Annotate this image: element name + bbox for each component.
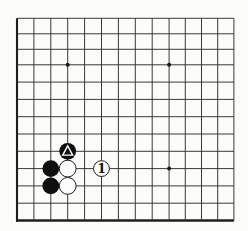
black-stone: [42, 160, 59, 177]
move-number-label: 1: [97, 161, 106, 176]
star-point: [167, 63, 171, 67]
board-background: [0, 0, 248, 231]
star-point: [66, 63, 70, 67]
go-diagram-page: 1: [0, 0, 248, 231]
white-stone: [59, 178, 76, 195]
white-stone: [59, 160, 76, 177]
black-stone: [42, 178, 59, 195]
go-board-diagram: 1: [0, 0, 248, 231]
star-point: [167, 167, 171, 171]
